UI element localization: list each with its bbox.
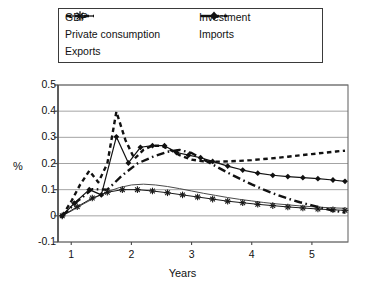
data-point [164,190,171,197]
data-point [255,170,261,176]
data-point [315,176,321,182]
data-point [198,155,204,161]
data-point [285,174,291,180]
data-point [98,192,104,198]
data-point [269,202,276,209]
data-point [224,198,231,205]
data-point [209,196,216,203]
data-point [134,186,141,193]
data-point [330,177,336,183]
data-point [113,134,119,140]
data-point [119,186,126,193]
data-point [240,167,246,173]
data-point [239,199,246,206]
data-point [149,188,156,195]
chart-container: GDP Private consumption [0,0,365,296]
data-point [179,192,186,199]
data-point [300,205,307,212]
data-point [300,175,306,181]
data-point [342,178,348,184]
data-point [270,172,276,178]
data-point [89,195,96,202]
data-point [285,204,292,211]
data-point [225,163,231,169]
data-point [254,201,261,208]
data-point [194,194,201,201]
plot-area [0,0,365,296]
